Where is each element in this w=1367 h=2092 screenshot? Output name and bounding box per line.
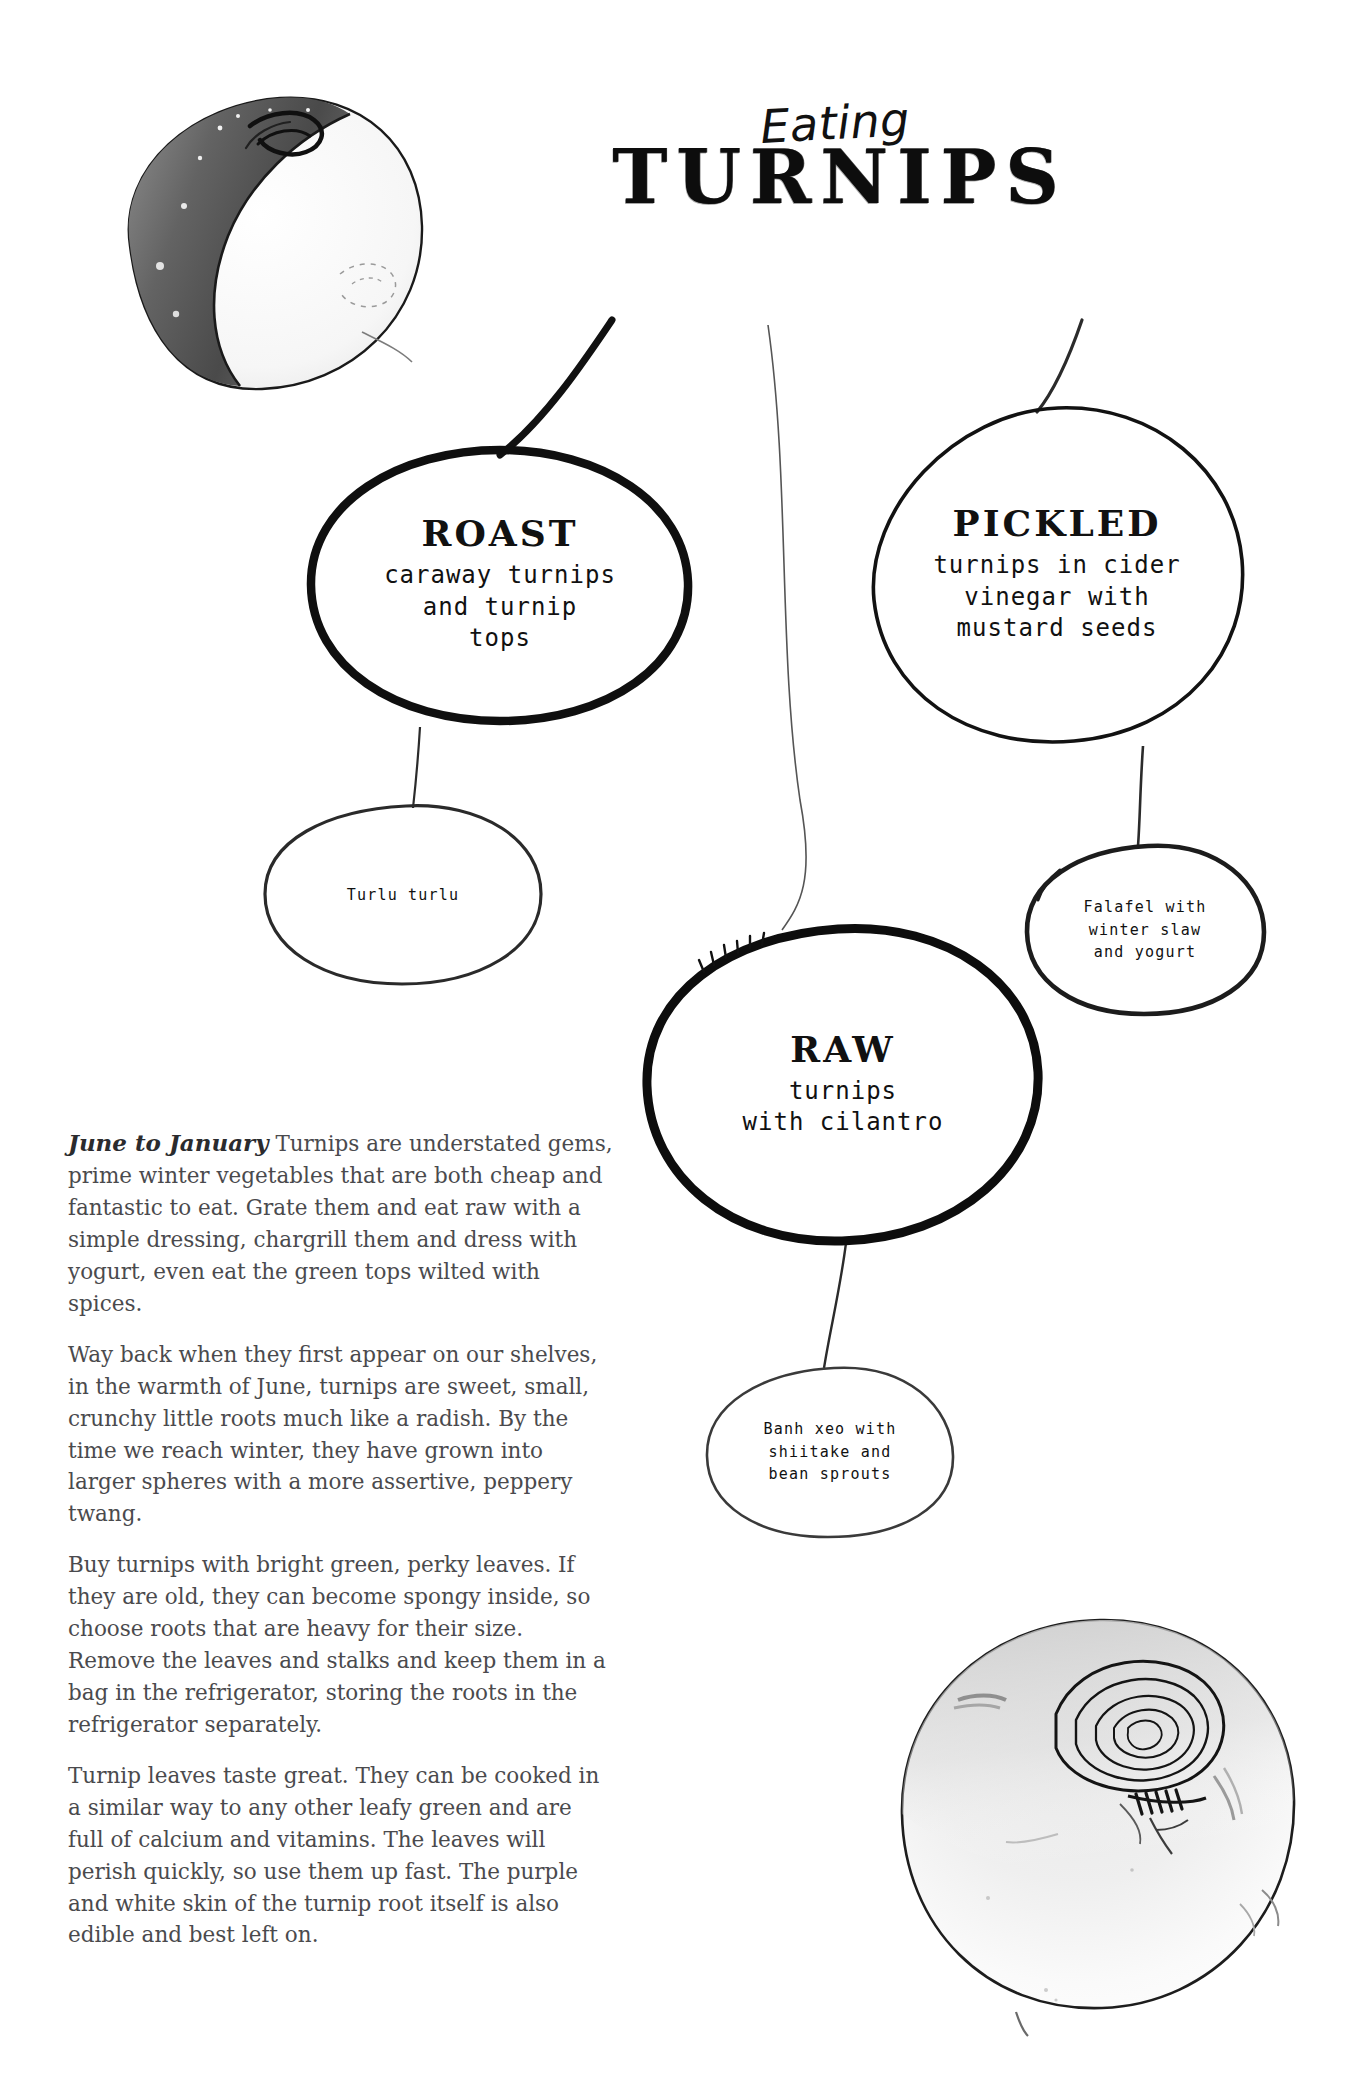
article-paragraph-1-text: Turnips are understated gems, prime wint… <box>68 1131 613 1316</box>
turlu-line-1: Turlu turlu <box>347 884 460 907</box>
halved-turnip-illustration <box>100 86 430 436</box>
raw-bubble-text: RAW turnips with cilantro <box>725 1031 962 1139</box>
falafel-line-3: and yogurt <box>1084 941 1207 964</box>
bubble-turlu-turlu[interactable]: Turlu turlu <box>258 800 548 990</box>
pickled-bubble-text: PICKLED turnips in cider vinegar with mu… <box>915 505 1198 645</box>
article-lead-in: June to January <box>68 1129 269 1156</box>
bubble-raw[interactable]: RAW turnips with cilantro <box>638 920 1048 1250</box>
banh-xeo-line-3: bean sprouts <box>764 1463 897 1486</box>
banh-xeo-line-2: shiitake and <box>764 1441 897 1464</box>
pickled-line-2: vinegar with <box>933 582 1180 614</box>
falafel-line-1: Falafel with <box>1084 896 1207 919</box>
whole-turnip-illustration <box>888 1608 1308 2038</box>
roast-line-1: caraway turnips <box>384 560 616 592</box>
raw-line-1: turnips <box>743 1076 944 1108</box>
raw-line-2: with cilantro <box>743 1107 944 1139</box>
turlu-bubble-text: Turlu turlu <box>329 884 478 907</box>
article-paragraph-1: June to January Turnips are understated … <box>68 1126 613 1320</box>
roast-line-3: tops <box>384 623 616 655</box>
roast-heading: ROAST <box>384 515 616 553</box>
bubble-pickled[interactable]: PICKLED turnips in cider vinegar with mu… <box>862 400 1252 750</box>
article-paragraph-3: Buy turnips with bright green, perky lea… <box>68 1549 613 1741</box>
article-paragraph-2: Way back when they first appear on our s… <box>68 1339 613 1531</box>
roast-line-2: and turnip <box>384 592 616 624</box>
pickled-line-1: turnips in cider <box>933 550 1180 582</box>
pickled-heading: PICKLED <box>933 505 1180 543</box>
magazine-page: Eating TURNIPS <box>0 0 1367 2092</box>
page-title: Eating TURNIPS <box>600 100 1080 214</box>
banh-xeo-line-1: Banh xeo with <box>764 1418 897 1441</box>
article-body: June to January Turnips are understated … <box>68 1126 613 1970</box>
article-paragraph-4: Turnip leaves taste great. They can be c… <box>68 1760 613 1952</box>
banh-xeo-bubble-text: Banh xeo with shiitake and bean sprouts <box>746 1418 915 1486</box>
bubble-banh-xeo[interactable]: Banh xeo with shiitake and bean sprouts <box>700 1362 960 1542</box>
bubble-roast[interactable]: ROAST caraway turnips and turnip tops <box>300 440 700 730</box>
raw-heading: RAW <box>743 1031 944 1069</box>
pickled-line-3: mustard seeds <box>933 613 1180 645</box>
bubble-falafel[interactable]: Falafel with winter slaw and yogurt <box>1020 840 1270 1020</box>
falafel-bubble-text: Falafel with winter slaw and yogurt <box>1066 896 1225 964</box>
roast-bubble-text: ROAST caraway turnips and turnip tops <box>366 515 634 655</box>
falafel-line-2: winter slaw <box>1084 919 1207 942</box>
